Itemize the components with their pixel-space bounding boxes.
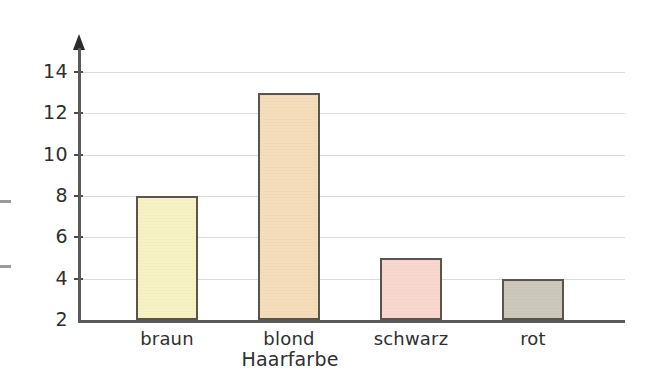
x-axis-line bbox=[78, 320, 625, 323]
bar-texture bbox=[260, 95, 318, 318]
bar-texture bbox=[382, 260, 440, 318]
x-axis-title: Haarfarbe bbox=[190, 348, 390, 370]
bar-texture bbox=[138, 198, 196, 318]
gridline bbox=[80, 113, 625, 114]
bar-chart: 1412108642 braunblondschwarzrot Haarfarb… bbox=[0, 0, 652, 392]
bar-blond bbox=[258, 93, 320, 320]
x-axis-label-schwarz: schwarz bbox=[351, 328, 471, 349]
y-axis-tick-label: 10 bbox=[22, 143, 68, 165]
gridline bbox=[80, 72, 625, 73]
bar-schwarz bbox=[380, 258, 442, 320]
plot-area: 1412108642 braunblondschwarzrot Haarfarb… bbox=[0, 0, 652, 392]
x-axis-label-braun: braun bbox=[107, 328, 227, 349]
x-axis-label-blond: blond bbox=[229, 328, 349, 349]
bar-braun bbox=[136, 196, 198, 320]
page-margin-mark bbox=[0, 265, 11, 268]
y-axis-tick-label: 8 bbox=[22, 184, 68, 206]
y-axis-line bbox=[78, 48, 81, 322]
gridline bbox=[80, 155, 625, 156]
x-axis-label-rot: rot bbox=[473, 328, 593, 349]
y-axis-tick-label: 6 bbox=[22, 225, 68, 247]
y-axis-tick-label: 4 bbox=[22, 267, 68, 289]
y-axis-tick-label: 12 bbox=[22, 101, 68, 123]
page-margin-mark bbox=[0, 200, 11, 203]
y-axis-tick-label: 2 bbox=[22, 308, 68, 330]
bar-rot bbox=[502, 279, 564, 320]
bar-texture bbox=[504, 281, 562, 318]
y-axis-tick-label: 14 bbox=[22, 60, 68, 82]
